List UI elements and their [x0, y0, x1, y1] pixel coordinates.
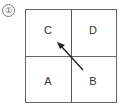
arrow-icon [0, 0, 119, 111]
